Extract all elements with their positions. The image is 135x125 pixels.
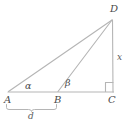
- vertex-label-D: D: [110, 4, 118, 14]
- length-label-x: x: [117, 53, 122, 62]
- length-label-d: d: [28, 112, 34, 121]
- angle-label-beta: β: [65, 78, 71, 88]
- geometry-diagram: D A B C α β x d: [0, 0, 135, 125]
- diagram-canvas: [0, 0, 135, 125]
- segment-DC: [113, 20, 114, 92]
- vertex-label-B: B: [54, 95, 61, 105]
- right-angle-marker-icon: [106, 83, 114, 92]
- angle-label-alpha: α: [25, 81, 31, 91]
- vertex-label-A: A: [4, 95, 11, 105]
- vertex-label-C: C: [108, 95, 116, 105]
